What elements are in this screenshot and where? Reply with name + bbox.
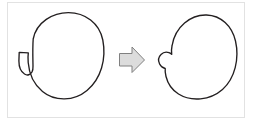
- blob-with-rounded-lobe-icon: [159, 15, 237, 99]
- before-shape-group: [19, 13, 104, 99]
- after-shape-group: [159, 15, 237, 99]
- blob-with-angular-notch-icon: [19, 13, 104, 99]
- transform-arrow-group: [120, 47, 145, 73]
- figure-canvas: [0, 0, 259, 122]
- right-arrow-icon: [120, 47, 145, 73]
- figure-container: Large circular blob with an angular step…: [0, 0, 259, 122]
